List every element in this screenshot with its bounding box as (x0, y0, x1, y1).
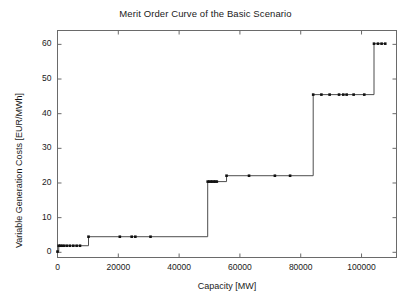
y-tick-label: 0 (14, 246, 52, 256)
x-tick-label: 60000 (210, 262, 270, 272)
y-tick-label: 30 (14, 142, 52, 152)
axis-ticks (58, 31, 397, 258)
y-tick-label: 10 (14, 212, 52, 222)
x-tick-label: 0 (28, 262, 88, 272)
x-tick-label: 40000 (149, 262, 209, 272)
y-tick-label: 60 (14, 38, 52, 48)
chart-figure: Merit Order Curve of the Basic Scenario … (0, 0, 411, 303)
x-tick-label: 80000 (271, 262, 331, 272)
x-tick-label: 100000 (332, 262, 392, 272)
x-axis-label: Capacity [MW] (57, 281, 397, 291)
y-tick-label: 20 (14, 177, 52, 187)
y-tick-label: 40 (14, 108, 52, 118)
merit-order-series (58, 44, 386, 252)
x-tick-label: 20000 (88, 262, 148, 272)
data-point-markers (56, 42, 386, 253)
y-tick-label: 50 (14, 73, 52, 83)
chart-canvas (0, 0, 411, 303)
